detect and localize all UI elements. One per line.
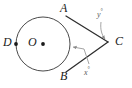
angle-label-y: y° bbox=[97, 8, 103, 19]
point-label-C: C bbox=[115, 35, 123, 47]
leader-line-angle-y bbox=[101, 22, 105, 39]
geometry-figure: A B C D O y° x° bbox=[0, 0, 132, 88]
point-label-O: O bbox=[28, 36, 37, 48]
point-label-D: D bbox=[3, 36, 12, 48]
point-dot-O bbox=[41, 42, 45, 46]
angle-label-x: x° bbox=[84, 66, 90, 77]
degree-symbol-icon: ° bbox=[88, 66, 90, 72]
point-label-A: A bbox=[60, 2, 67, 14]
degree-symbol-icon: ° bbox=[101, 8, 103, 14]
tangent-segment-AC bbox=[66, 16, 108, 42]
point-label-B: B bbox=[60, 70, 67, 82]
point-dot-D bbox=[14, 42, 18, 46]
